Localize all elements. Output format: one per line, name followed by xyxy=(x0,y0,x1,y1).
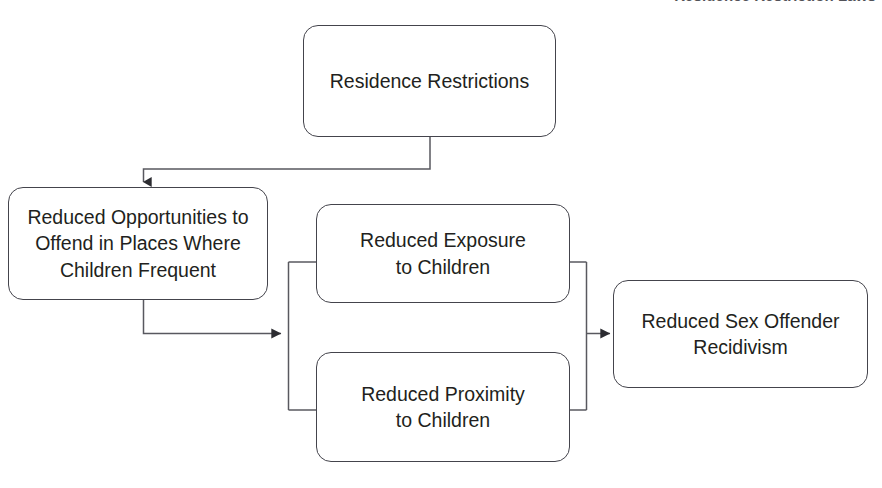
node-reduced-recidivism: Reduced Sex Offender Recidivism xyxy=(613,280,868,388)
node-reduced-exposure: Reduced Exposure to Children xyxy=(316,204,570,303)
edge-restrictions-to-opportunities xyxy=(144,137,431,182)
node-label: Residence Restrictions xyxy=(330,68,529,94)
node-label: Reduced Proximity to Children xyxy=(361,381,525,433)
node-label: Reduced Exposure to Children xyxy=(360,227,526,279)
node-residence-restrictions: Residence Restrictions xyxy=(303,25,556,137)
node-reduced-opportunities: Reduced Opportunities to Offend in Place… xyxy=(8,187,268,300)
diagram-canvas: Residence Restriction Laws Residence Res… xyxy=(0,0,882,488)
node-reduced-proximity: Reduced Proximity to Children xyxy=(316,352,570,462)
node-label: Reduced Sex Offender Recidivism xyxy=(641,308,839,360)
edge-opportunities-to-mechanisms xyxy=(144,300,282,334)
node-label: Reduced Opportunities to Offend in Place… xyxy=(27,204,248,282)
